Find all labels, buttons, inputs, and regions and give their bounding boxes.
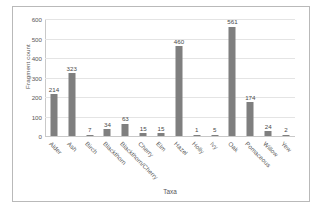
bar-value-label: 323 <box>67 65 77 72</box>
bar[interactable] <box>265 131 272 136</box>
figure-border: Fragment count 6005004003002001000 21432… <box>12 6 310 202</box>
bar[interactable] <box>193 135 200 136</box>
x-axis-tick-label: Elm <box>155 140 168 153</box>
x-axis-tick-label: Oak <box>227 140 240 153</box>
bar-slot: 214 <box>45 19 63 136</box>
bar-value-label: 5 <box>213 126 216 133</box>
bar[interactable] <box>283 135 290 136</box>
x-axis-tick-label: Ash <box>66 140 79 153</box>
x-axis-tick-label: Ivy <box>209 140 220 151</box>
bar-slot: 34 <box>99 19 117 136</box>
bar[interactable] <box>247 102 254 136</box>
y-axis-tick-label: 300 <box>32 74 42 81</box>
bar[interactable] <box>50 94 57 136</box>
x-axis-title: Taxa <box>45 188 295 195</box>
y-axis-tick-label: 600 <box>32 16 42 23</box>
bar-slot: 24 <box>259 19 277 136</box>
bar-value-label: 2 <box>284 126 287 133</box>
bar[interactable] <box>229 27 236 136</box>
x-axis-tick-label: Yew <box>280 140 293 153</box>
y-axis-tick-label: 0 <box>39 133 42 140</box>
bar[interactable] <box>211 135 218 136</box>
bar-slot: 174 <box>241 19 259 136</box>
x-axis-tick-label: Hazel <box>173 140 189 156</box>
x-axis-tick-label: Alder <box>48 140 63 155</box>
bar-slot: 323 <box>63 19 81 136</box>
bar-slot: 1 <box>188 19 206 136</box>
bar-slot: 63 <box>116 19 134 136</box>
bar-value-label: 24 <box>265 123 272 130</box>
x-axis-tick-label: Birch <box>84 140 99 155</box>
bar-value-label: 15 <box>158 125 165 132</box>
y-axis-tick-label: 400 <box>32 55 42 62</box>
bar-slot: 7 <box>81 19 99 136</box>
bar-value-label: 214 <box>49 86 59 93</box>
bar[interactable] <box>158 133 165 136</box>
bar-value-label: 15 <box>140 125 147 132</box>
bar-value-label: 63 <box>122 115 129 122</box>
bar-slot: 15 <box>134 19 152 136</box>
y-axis-title: Fragment count <box>24 27 31 107</box>
bar-value-label: 174 <box>245 94 255 101</box>
bar-slot: 561 <box>224 19 242 136</box>
bar[interactable] <box>104 129 111 136</box>
bar[interactable] <box>122 124 129 136</box>
bar-slot: 2 <box>277 19 295 136</box>
bar-value-label: 34 <box>104 121 111 128</box>
bar-value-label: 561 <box>227 18 237 25</box>
bar-value-label: 1 <box>195 126 198 133</box>
bar[interactable] <box>86 135 93 136</box>
bar-series: 21432373463151546015561174242 <box>45 19 295 136</box>
bar-slot: 5 <box>206 19 224 136</box>
gridline <box>45 136 295 137</box>
bar-value-label: 7 <box>88 126 91 133</box>
plot-area: 6005004003002001000 21432373463151546015… <box>45 19 295 136</box>
bar[interactable] <box>140 133 147 136</box>
bar-slot: 15 <box>152 19 170 136</box>
bar-value-label: 460 <box>174 38 184 45</box>
y-axis-tick-label: 500 <box>32 35 42 42</box>
y-axis-tick-label: 200 <box>32 94 42 101</box>
bar-slot: 460 <box>170 19 188 136</box>
bar[interactable] <box>68 73 75 136</box>
bar-chart-figure: Fragment count 6005004003002001000 21432… <box>0 0 324 214</box>
bar[interactable] <box>175 46 182 136</box>
y-axis-tick-label: 100 <box>32 113 42 120</box>
x-axis-tick-label: Holly <box>191 140 206 155</box>
